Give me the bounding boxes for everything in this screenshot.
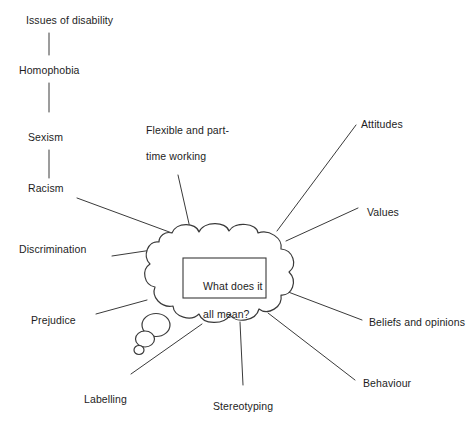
spoke-label-discrimination: Discrimination — [19, 243, 86, 256]
center-question-text: What does it all mean? — [191, 265, 263, 335]
spoke-line-attitudes — [277, 125, 356, 231]
spoke-line-values — [286, 208, 358, 241]
spoke-label-values: Values — [367, 206, 399, 219]
spoke-label-behaviour: Behaviour — [363, 377, 411, 390]
spoke-label-flexible-and-part-time-working: Flexible and part- time working — [134, 111, 229, 176]
chain-label-homophobia: Homophobia — [19, 64, 80, 77]
center-question-line1: What does it — [203, 280, 263, 292]
diagram-canvas: Issues of disability Homophobia Sexism R… — [0, 0, 474, 432]
spoke-label-labelling: Labelling — [84, 393, 127, 406]
chain-label-issues-of-disability: Issues of disability — [26, 14, 113, 27]
spoke-label-attitudes: Attitudes — [361, 118, 403, 131]
spoke-line-racism — [77, 198, 172, 233]
spoke-label-beliefs-and-opinions: Beliefs and opinions — [369, 316, 465, 329]
thought-bubble-small — [134, 346, 144, 355]
spoke-line-beliefs-opinions — [283, 290, 362, 320]
spoke-label-stereotyping: Stereotyping — [213, 400, 273, 413]
chain-label-sexism: Sexism — [28, 131, 63, 144]
spoke-label-flexible-line2: time working — [146, 150, 206, 162]
chain-label-racism: Racism — [28, 182, 64, 195]
spoke-label-flexible-line1: Flexible and part- — [146, 124, 229, 136]
center-question-line2: all mean? — [203, 308, 249, 320]
spoke-label-prejudice: Prejudice — [31, 314, 76, 327]
thought-bubble-medium — [136, 331, 155, 347]
spoke-line-prejudice — [96, 300, 147, 314]
spoke-line-behaviour — [268, 313, 355, 380]
